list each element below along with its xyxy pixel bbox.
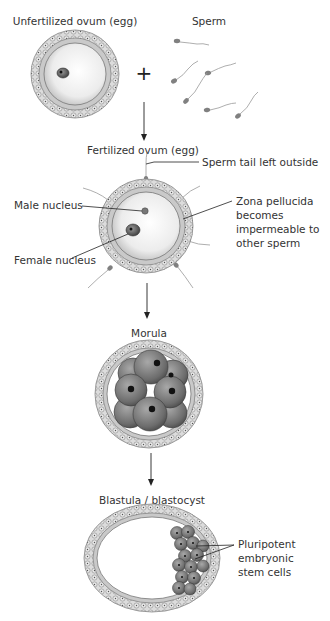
male-nucleus-icon <box>142 208 148 214</box>
unfertilized-ovum <box>31 30 119 118</box>
blastocyst <box>84 504 220 612</box>
svg-text:becomes: becomes <box>236 209 283 221</box>
fertilized-ovum-label: Fertilized ovum (egg) <box>87 144 199 156</box>
sperm-icon <box>204 63 236 76</box>
svg-text:Zona pellucida: Zona pellucida <box>236 195 313 207</box>
unfertilized-ovum-label: Unfertilized ovum (egg) <box>13 15 138 27</box>
blastula-stage: Blastula / blastocyst <box>84 494 296 612</box>
sperm-group <box>170 39 258 120</box>
fertilized-ovum <box>99 179 193 273</box>
arrow-down-icon <box>141 102 147 141</box>
female-nucleus-label: Female nucleus <box>14 254 96 266</box>
sperm-icon <box>182 73 207 105</box>
morula-label: Morula <box>131 327 167 339</box>
morula-stage: Morula <box>95 327 203 486</box>
zona-pellucida-label: Zona pellucida becomes impermeable to ot… <box>236 195 319 249</box>
sperm-label: Sperm <box>192 15 226 27</box>
male-nucleus-label: Male nucleus <box>14 199 83 211</box>
stem-cells-label: Pluripotent embryonic stem cells <box>238 538 296 578</box>
unfertilized-stage: Unfertilized ovum (egg) Sperm + <box>13 15 258 141</box>
arrow-down-icon <box>148 453 154 486</box>
svg-text:other sperm: other sperm <box>236 237 300 249</box>
svg-text:stem cells: stem cells <box>238 566 291 578</box>
svg-text:Pluripotent: Pluripotent <box>238 538 296 550</box>
sperm-icon <box>203 103 236 113</box>
sperm-icon <box>174 39 209 45</box>
fertilized-stage: Fertilized ovum (egg) <box>14 144 319 319</box>
sperm-tail-label: Sperm tail left outside <box>202 156 318 168</box>
svg-text:embryonic: embryonic <box>238 552 294 564</box>
sperm-icon <box>234 92 258 120</box>
arrow-down-icon <box>144 283 150 319</box>
sperm-icon <box>170 61 198 85</box>
plus-operator: + <box>136 61 153 85</box>
fertilization-diagram: Unfertilized ovum (egg) Sperm + Fertiliz… <box>0 0 330 621</box>
svg-text:impermeable to: impermeable to <box>236 223 319 235</box>
female-nucleus-icon <box>126 224 140 236</box>
ovum-nucleus-icon <box>57 68 69 78</box>
morula <box>95 340 203 448</box>
